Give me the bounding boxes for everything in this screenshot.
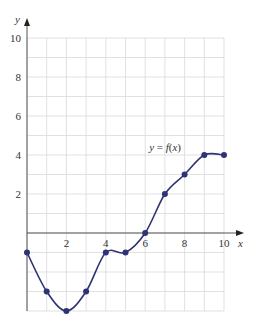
data-point — [221, 152, 227, 158]
axes — [24, 18, 244, 311]
data-point — [103, 250, 109, 256]
x-tick-label: 4 — [103, 237, 109, 249]
data-point — [182, 172, 188, 178]
data-point — [83, 289, 89, 295]
function-graph: 246810246810 x y y = f(x) — [0, 0, 254, 329]
data-point — [142, 230, 148, 236]
y-tick-label: 2 — [16, 188, 22, 200]
y-tick-label: 8 — [16, 71, 22, 83]
grid-lines — [27, 38, 224, 311]
y-tick-label: 4 — [16, 149, 22, 161]
y-tick-label: 6 — [16, 110, 22, 122]
y-axis-arrow-icon — [24, 18, 30, 26]
x-tick-label: 6 — [142, 237, 148, 249]
x-axis-arrow-icon — [236, 230, 244, 236]
x-tick-label: 10 — [219, 237, 231, 249]
data-point — [123, 250, 129, 256]
y-axis-label: y — [14, 13, 20, 25]
data-point — [24, 250, 30, 256]
curve-label: y = f(x) — [148, 141, 181, 154]
tick-labels: 246810246810 — [10, 32, 230, 249]
x-tick-label: 8 — [182, 237, 188, 249]
data-point — [63, 308, 69, 314]
data-point — [44, 289, 50, 295]
data-point — [201, 152, 207, 158]
x-axis-label: x — [237, 237, 243, 249]
x-tick-label: 2 — [64, 237, 70, 249]
y-tick-label: 10 — [10, 32, 22, 44]
data-point — [162, 191, 168, 197]
